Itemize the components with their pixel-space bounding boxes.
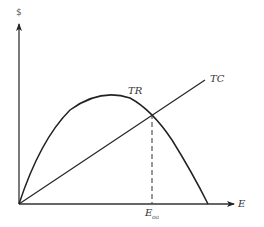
- tc-line: [19, 80, 205, 204]
- diagram-canvas: $ E TR TC E oa: [0, 0, 264, 227]
- y-axis-label: $: [16, 7, 22, 17]
- x-axis-label: E: [237, 198, 246, 209]
- tr-label: TR: [128, 85, 143, 96]
- tr-curve: [19, 95, 208, 204]
- marker-subscript: oa: [152, 213, 160, 220]
- tc-label: TC: [210, 73, 225, 84]
